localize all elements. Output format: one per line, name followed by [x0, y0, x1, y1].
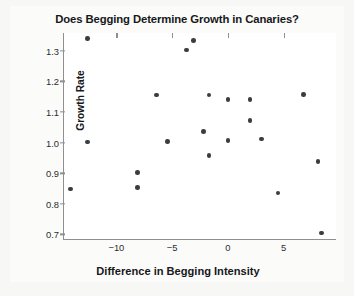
y-tick-label: 0.7	[37, 229, 59, 240]
scatter-point	[68, 187, 73, 192]
y-tick-label: 1.1	[37, 107, 59, 118]
scatter-point	[85, 140, 90, 145]
chart-figure: Does Begging Determine Growth in Canarie…	[0, 0, 354, 296]
scatter-point	[226, 97, 231, 102]
scatter-point	[259, 137, 264, 142]
scatter-point	[207, 93, 212, 98]
x-tick-label: −10	[96, 242, 136, 253]
scatter-point	[248, 118, 253, 123]
scatter-points	[64, 33, 336, 239]
x-tick-label: −5	[152, 242, 192, 253]
scatter-point	[135, 170, 140, 175]
scatter-point	[207, 153, 212, 158]
x-axis-label: Difference in Begging Intensity	[1, 265, 354, 277]
scatter-point	[165, 139, 170, 144]
scatter-point	[85, 36, 90, 41]
scatter-point	[201, 129, 206, 134]
y-tick-label: 0.9	[37, 168, 59, 179]
scatter-point	[135, 185, 140, 190]
scatter-point	[276, 191, 281, 196]
y-tick-label: 1.0	[37, 137, 59, 148]
y-tick-label: 1.2	[37, 76, 59, 87]
chart-title: Does Begging Determine Growth in Canarie…	[0, 13, 354, 25]
scatter-point	[184, 48, 189, 53]
x-tick-label: 5	[264, 242, 304, 253]
scatter-point	[248, 97, 253, 102]
scatter-point	[226, 138, 231, 143]
y-tick-label: 1.3	[37, 45, 59, 56]
y-tick-label: 0.8	[37, 198, 59, 209]
scatter-point	[301, 92, 306, 97]
scatter-point	[319, 231, 324, 236]
scatter-point	[191, 38, 196, 43]
plot-area: Growth Rate Difference in Begging Intens…	[63, 33, 336, 240]
x-tick-label: 0	[208, 242, 248, 253]
scatter-point	[154, 93, 159, 98]
scatter-point	[316, 159, 321, 164]
